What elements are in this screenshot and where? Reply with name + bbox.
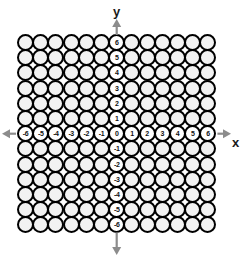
grid-cell: [47, 64, 64, 81]
grid-cell-label: -1: [95, 127, 108, 140]
diagram-canvas: 654321-6-5-4-3-2-10123456-1-2-3-4-5-6 x …: [0, 0, 249, 258]
grid-cell: [123, 140, 140, 157]
x-axis-tick-cell: 6: [199, 125, 216, 142]
grid-cell-label: 5: [110, 51, 123, 64]
y-axis-label: y: [113, 5, 120, 18]
grid-cell: [123, 216, 140, 233]
grid-cell-label: -2: [80, 127, 93, 140]
grid-cell-label: 2: [141, 127, 154, 140]
grid-cell-label: -6: [110, 218, 123, 231]
grid-cell: [47, 140, 64, 157]
grid-cell-label: -2: [110, 158, 123, 171]
grid-cell-label: -3: [65, 127, 78, 140]
grid-cell: [199, 64, 216, 81]
x-axis-tick-cell: -4: [47, 125, 64, 142]
y-axis-tick-cell: 4: [108, 64, 125, 81]
grid-cell: [199, 140, 216, 157]
grid-cell-label: 1: [110, 112, 123, 125]
grid-cell-label: -3: [110, 173, 123, 186]
y-axis-tick-cell: -6: [108, 216, 125, 233]
grid-cell-label: 2: [110, 97, 123, 110]
grid-cell-label: -5: [34, 127, 47, 140]
x-axis-tick-cell: 1: [123, 125, 140, 142]
grid-cell-label: -4: [110, 188, 123, 201]
grid-cell-label: -4: [49, 127, 62, 140]
grid-cell: [199, 216, 216, 233]
circle-grid: 654321-6-5-4-3-2-10123456-1-2-3-4-5-6: [0, 0, 249, 258]
x-axis-label: x: [232, 136, 239, 149]
grid-cell-label: 4: [171, 127, 184, 140]
grid-cell-label: 5: [186, 127, 199, 140]
grid-cell-label: -5: [110, 203, 123, 216]
grid-cell-label: 3: [110, 82, 123, 95]
grid-cell-label: 1: [125, 127, 138, 140]
y-axis-tick-cell: -1: [108, 140, 125, 157]
grid-cell-label: 0: [110, 127, 123, 140]
grid-cell-label: -1: [110, 142, 123, 155]
grid-cell-label: 4: [110, 66, 123, 79]
grid-cell-label: 3: [156, 127, 169, 140]
grid-cell: [47, 216, 64, 233]
grid-cell-label: 6: [110, 36, 123, 49]
grid-cell-label: 6: [201, 127, 214, 140]
grid-cell-label: -6: [19, 127, 32, 140]
grid-cell: [123, 64, 140, 81]
